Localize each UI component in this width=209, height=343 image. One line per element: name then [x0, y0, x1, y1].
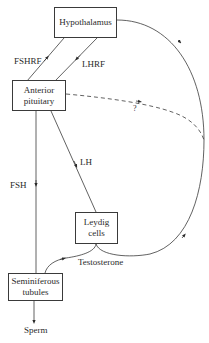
- unknown-feedback-label: ?: [133, 104, 137, 114]
- hypothalamus-node: Hypothalamus: [54, 7, 117, 38]
- feedback-unknown-dashed: [66, 94, 204, 140]
- leydig-cells-label-2: cells: [88, 228, 105, 239]
- seminiferous-tubules-label-1: Seminiferous: [12, 276, 60, 287]
- hypothalamus-label: Hypothalamus: [59, 17, 112, 28]
- testosterone-label: Testosterone: [78, 257, 123, 267]
- anterior-pituitary-label-2: pituitary: [24, 96, 55, 107]
- fsh-label: FSH: [10, 180, 27, 190]
- sperm-label: Sperm: [24, 325, 48, 335]
- leydig-cells-node: Leydig cells: [75, 212, 118, 244]
- leydig-cells-label-1: Leydig: [84, 217, 110, 228]
- anterior-pituitary-label-1: Anterior: [24, 85, 55, 96]
- seminiferous-tubules-node: Seminiferous tubules: [8, 273, 63, 301]
- anterior-pituitary-node: Anterior pituitary: [12, 80, 66, 111]
- lhrf-label: LHRF: [82, 59, 105, 69]
- fshrf-label: FSHRF: [14, 56, 42, 66]
- seminiferous-tubules-label-2: tubules: [23, 287, 49, 298]
- lh-label: LH: [80, 157, 92, 167]
